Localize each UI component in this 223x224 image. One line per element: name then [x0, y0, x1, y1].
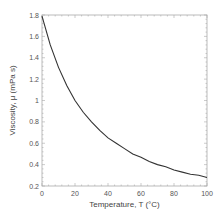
x-tick-label: 40 [104, 190, 112, 197]
y-tick-label: 1.6 [29, 33, 39, 40]
y-tick-label: 0.4 [29, 161, 39, 168]
y-tick-label: 0.6 [29, 140, 39, 147]
y-tick-label: 0.2 [29, 183, 39, 190]
viscosity-curve [42, 16, 207, 177]
x-tick-label: 80 [170, 190, 178, 197]
x-axis-label: Temperature, T (°C) [89, 200, 160, 209]
y-tick-label: 1.2 [29, 76, 39, 83]
viscosity-chart: 020406080100 0.20.40.60.811.21.41.61.8 T… [0, 0, 223, 224]
x-tick-label: 0 [40, 190, 44, 197]
y-tick-labels: 0.20.40.60.811.21.41.61.8 [29, 12, 39, 190]
y-axis-label: Viscosity, μ (mPa s) [8, 65, 17, 135]
x-tick-label: 100 [201, 190, 213, 197]
x-tick-label: 60 [137, 190, 145, 197]
y-tick-label: 1 [35, 97, 39, 104]
x-tick-label: 20 [71, 190, 79, 197]
plot-frame [42, 15, 207, 186]
y-tick-label: 1.4 [29, 54, 39, 61]
y-tick-label: 1.8 [29, 12, 39, 19]
x-tick-labels: 020406080100 [40, 190, 213, 197]
y-tick-label: 0.8 [29, 118, 39, 125]
axis-ticks [42, 15, 207, 186]
